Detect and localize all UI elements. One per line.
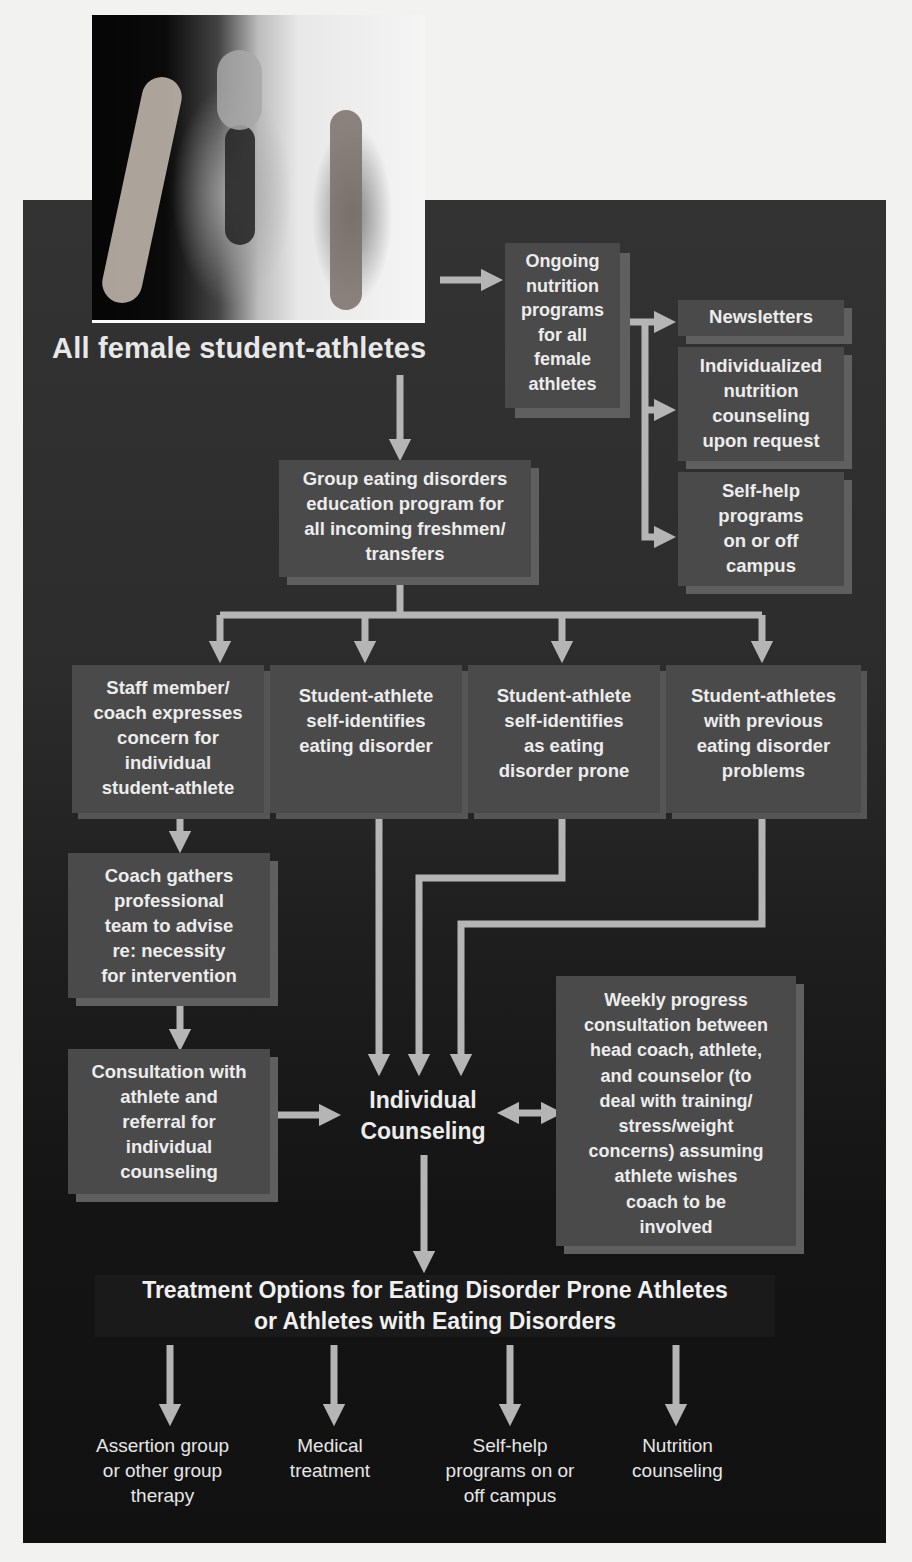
node-newsletters: Newsletters [678, 300, 844, 336]
node-consultation-referral: Consultation with athlete and referral f… [68, 1049, 270, 1194]
option-assertion-group: Assertion group or other group therapy [70, 1433, 255, 1508]
node-staff-coach-concern: Staff member/ coach expresses concern fo… [72, 665, 264, 813]
node-individual-counseling: Individual Counseling [338, 1085, 508, 1147]
node-coach-gathers-team: Coach gathers professional team to advis… [68, 853, 270, 998]
node-self-help-nutrition: Self-help programs on or off campus [678, 472, 844, 586]
node-self-identifies-prone: Student-athlete self-identifies as eatin… [468, 665, 660, 813]
root-node-all-female-athletes: All female student-athletes [52, 332, 426, 365]
node-weekly-progress-consultation: Weekly progress consultation between hea… [556, 976, 796, 1246]
option-self-help-programs: Self-help programs on or off campus [420, 1433, 600, 1508]
node-previous-problems: Student-athletes with previous eating di… [666, 665, 861, 813]
node-ongoing-nutrition: Ongoing nutrition programs for all femal… [505, 243, 620, 408]
node-group-education-program: Group eating disorders education program… [279, 460, 531, 577]
node-individualized-nutrition: Individualized nutrition counseling upon… [678, 347, 844, 461]
node-self-identifies-disorder: Student-athlete self-identifies eating d… [270, 665, 462, 813]
treatment-options-title: Treatment Options for Eating Disorder Pr… [95, 1275, 775, 1337]
option-nutrition-counseling: Nutrition counseling [605, 1433, 750, 1483]
option-medical-treatment: Medical treatment [260, 1433, 400, 1483]
